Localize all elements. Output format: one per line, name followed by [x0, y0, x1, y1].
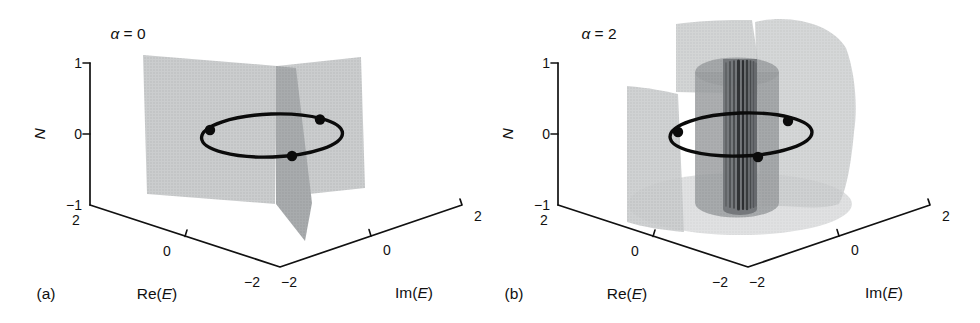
- im-tick-m2: −2: [281, 274, 297, 290]
- panel-a-surfaces: [143, 55, 365, 241]
- panel-a-title: α = 0: [110, 25, 146, 42]
- re-im-axis-lines: [90, 199, 462, 267]
- n-tick-1: 1: [542, 55, 550, 71]
- re-tick-0: 0: [163, 243, 171, 259]
- im-tick-0: 0: [383, 242, 391, 258]
- panel-b-n-axis-labels: 1 0 −1 N: [499, 55, 550, 213]
- re-tick-2: 2: [72, 212, 80, 228]
- panel-a-n-axis-labels: 1 0 −1 N: [31, 55, 82, 213]
- n-tick-1: 1: [74, 55, 82, 71]
- re-tick-2: 2: [540, 212, 548, 228]
- n-axis-label: N: [499, 128, 516, 140]
- fixed-point-dot: [753, 152, 763, 162]
- panel-a-re-axis-labels: 2 0 −2 Re(E): [72, 212, 260, 302]
- im-tick-m2: −2: [749, 274, 765, 290]
- re-tick-m2: −2: [244, 274, 260, 290]
- re-axis-label: Re(E): [137, 285, 178, 302]
- im-tick-2: 2: [474, 208, 482, 224]
- re-tick-0: 0: [631, 243, 639, 259]
- panel-b-surfaces: [627, 19, 856, 235]
- panel-b-letter: (b): [505, 285, 524, 302]
- im-axis-label: Im(E): [865, 284, 903, 301]
- figure-two-3d-panels: α = 0 1 0 −1 N 2 0 −2 Re(E) −2 0 2 Im(E)…: [0, 0, 980, 323]
- re-axis-label: Re(E): [607, 285, 648, 302]
- im-tick-2: 2: [942, 208, 950, 224]
- fixed-point-dot: [673, 127, 683, 137]
- fixed-point-dot: [315, 114, 325, 124]
- surface-left-curtain: [627, 86, 684, 232]
- panel-a-letter: (a): [37, 285, 56, 302]
- fixed-point-dot: [205, 125, 215, 135]
- panel-b: α = 2 1 0 −1 N 2 0 −2 Re(E) −2 0 2 Im(E)…: [499, 19, 950, 302]
- panel-b-title: α = 2: [581, 25, 616, 42]
- n-tick-m1: −1: [534, 197, 550, 213]
- n-tick-0: 0: [74, 126, 82, 142]
- im-tick-0: 0: [851, 242, 859, 258]
- n-tick-m1: −1: [66, 197, 82, 213]
- n-axis-label: N: [31, 128, 48, 140]
- panel-a-im-axis-labels: −2 0 2 Im(E): [281, 208, 482, 301]
- im-axis-label: Im(E): [395, 284, 433, 301]
- re-tick-m2: −2: [712, 274, 728, 290]
- panel-a: α = 0 1 0 −1 N 2 0 −2 Re(E) −2 0 2 Im(E)…: [31, 25, 482, 302]
- n-tick-0: 0: [542, 126, 550, 142]
- fixed-point-dot: [287, 151, 297, 161]
- fixed-point-dot: [783, 116, 793, 126]
- figure-canvas: α = 0 1 0 −1 N 2 0 −2 Re(E) −2 0 2 Im(E)…: [0, 0, 980, 323]
